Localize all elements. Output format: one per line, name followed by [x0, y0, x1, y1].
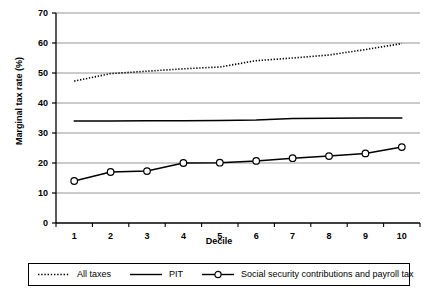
- y-axis-tick-labels: 010203040506070: [38, 8, 48, 228]
- data-point-marker: [362, 150, 369, 157]
- legend-label-social-security: Social security contributions and payrol…: [241, 269, 414, 280]
- legend-label-pit: PIT: [169, 269, 183, 280]
- data-point-marker: [289, 155, 296, 162]
- data-point-marker: [326, 153, 333, 160]
- y-axis-tick-label: 20: [38, 158, 48, 168]
- legend-label-all-taxes: All taxes: [77, 269, 111, 280]
- data-point-marker: [180, 160, 187, 167]
- legend-item-pit: PIT: [129, 269, 183, 280]
- y-axis-title: Marginal tax rate (%): [14, 46, 24, 156]
- data-point-marker: [107, 169, 114, 176]
- chart-page: 010203040506070 12345678910 Marginal tax…: [0, 0, 438, 296]
- plot-area: 010203040506070 12345678910 Marginal tax…: [0, 0, 438, 250]
- dotted-line-sample: [37, 269, 71, 280]
- y-axis-tick-label: 0: [43, 218, 48, 228]
- x-axis-title: Decile: [0, 236, 438, 246]
- y-axis-tick-label: 40: [38, 98, 48, 108]
- y-axis-tick-label: 70: [38, 8, 48, 18]
- chart-legend: All taxes PIT Social security contributi…: [28, 263, 410, 286]
- y-axis-tick-label: 10: [38, 188, 48, 198]
- series-line: [74, 44, 402, 82]
- y-axis-tick-label: 30: [38, 128, 48, 138]
- marginal-tax-rate-line-chart: 010203040506070 12345678910: [0, 0, 438, 250]
- y-axis-tick-label: 60: [38, 38, 48, 48]
- data-point-marker: [71, 178, 78, 185]
- data-point-marker: [399, 144, 406, 151]
- data-point-marker: [217, 159, 224, 166]
- legend-item-all-taxes: All taxes: [37, 269, 111, 280]
- gridlines: [56, 13, 420, 193]
- series-line: [74, 118, 402, 121]
- legend-item-social-security: Social security contributions and payrol…: [201, 269, 414, 280]
- series-line: [74, 147, 402, 181]
- line-with-circle-marker-sample: [201, 269, 235, 280]
- solid-line-sample: [129, 269, 163, 280]
- data-point-marker: [144, 168, 151, 175]
- y-axis-tick-label: 50: [38, 68, 48, 78]
- data-point-marker: [253, 158, 260, 165]
